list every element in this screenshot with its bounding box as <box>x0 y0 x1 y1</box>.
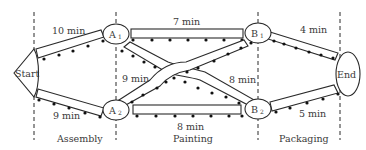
label-a2-b2: 8 min <box>177 121 204 132</box>
stage-label-painting: Painting <box>173 133 213 144</box>
label-a1-b2: 8 min <box>229 74 256 85</box>
label-a2-b1: 9 min <box>122 73 149 84</box>
edge-a1-b1 <box>131 29 244 42</box>
node-start-label: Start <box>15 68 40 79</box>
node-end-label: End <box>337 69 356 80</box>
node-a2-subscript: 2 <box>118 109 122 116</box>
edge-b1-end <box>268 32 338 60</box>
node-a2-label: A <box>108 105 116 116</box>
node-b1-label: B <box>251 28 258 39</box>
node-b1-subscript: 1 <box>260 32 264 39</box>
node-b1: B1 <box>245 23 271 43</box>
stage-labels: Assembly Painting Packaging <box>56 133 329 144</box>
label-a1-b1: 7 min <box>173 16 200 27</box>
label-start-a2: 9 min <box>53 110 80 121</box>
label-b2-end: 5 min <box>299 108 326 119</box>
node-end: End <box>336 52 360 96</box>
edge-a2-b2 <box>133 105 244 118</box>
node-a1-label: A <box>108 29 116 40</box>
node-a2: A2 <box>103 100 129 120</box>
node-start: Start <box>14 49 40 97</box>
node-b2: B2 <box>245 99 271 119</box>
node-a1-subscript: 1 <box>118 33 122 40</box>
node-a1: A1 <box>103 24 129 44</box>
stage-label-assembly: Assembly <box>56 133 103 144</box>
node-b2-subscript: 2 <box>260 108 264 115</box>
label-b1-end: 4 min <box>300 24 327 35</box>
assembly-line-diagram: Start A1 A2 B1 B2 End 10 min 9 min 7 min… <box>0 0 366 150</box>
label-start-a1: 10 min <box>52 25 85 36</box>
node-b2-label: B <box>251 104 258 115</box>
stage-label-packaging: Packaging <box>279 133 329 144</box>
